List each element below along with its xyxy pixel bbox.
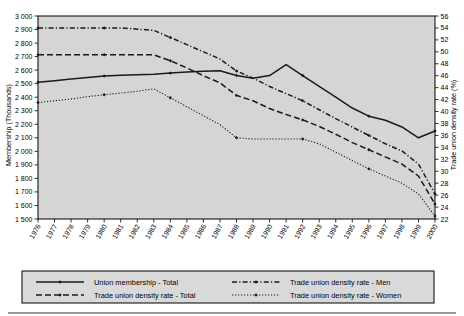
left-tick-label: 2 200 (15, 121, 33, 128)
x-tick-label: 1986 (193, 223, 207, 240)
left-tick-label: 2 400 (15, 94, 33, 101)
right-axis-tick-labels: 222426283032343638404244464850525456 (441, 13, 449, 223)
x-tick-label: 1998 (392, 223, 406, 240)
x-axis-ticks (38, 219, 435, 223)
left-axis-ticks (35, 16, 39, 219)
left-tick-label: 3 000 (15, 13, 33, 20)
chart-legend: Union membership - TotalTrade union dens… (8, 271, 456, 313)
x-tick-label: 1992 (293, 223, 307, 240)
right-tick-label: 36 (441, 132, 449, 139)
x-axis-year-labels: 1976197719781979198019811982198319841985… (28, 223, 439, 240)
right-axis-title: Trade union density rate (%) (449, 80, 458, 170)
left-tick-label: 2 900 (15, 26, 33, 33)
legend-label: Trade union density rate - Men (290, 278, 390, 287)
x-tick-label: 1985 (177, 223, 191, 240)
x-tick-label: 1989 (243, 223, 257, 240)
x-tick-label: 1981 (111, 223, 125, 240)
right-tick-label: 26 (441, 192, 449, 199)
x-tick-label: 1980 (94, 223, 108, 240)
x-tick-label: 1996 (359, 223, 373, 240)
right-tick-label: 48 (441, 60, 449, 67)
right-axis-ticks (435, 16, 439, 219)
x-tick-label: 1995 (342, 223, 356, 240)
legend-label: Trade union density rate - Women (290, 291, 401, 300)
x-tick-label: 1994 (326, 223, 340, 240)
left-tick-label: 2 800 (15, 40, 33, 47)
left-tick-label: 2 500 (15, 80, 33, 87)
chart-figure: 1 5001 6001 7001 8001 9002 0002 1002 200… (0, 0, 464, 316)
right-tick-label: 50 (441, 48, 449, 55)
x-tick-label: 1976 (28, 223, 42, 240)
dual-axis-line-chart: 1 5001 6001 7001 8001 9002 0002 1002 200… (0, 0, 464, 316)
right-tick-label: 42 (441, 96, 449, 103)
x-tick-label: 1977 (45, 223, 59, 240)
left-tick-label: 2 000 (15, 148, 33, 155)
x-tick-label: 1988 (227, 223, 241, 240)
x-tick-label: 1990 (260, 223, 274, 240)
right-tick-label: 40 (441, 108, 449, 115)
x-tick-label: 1982 (127, 223, 141, 240)
left-tick-label: 2 300 (15, 107, 33, 114)
x-tick-label: 1984 (160, 223, 174, 240)
left-tick-label: 1 500 (15, 216, 33, 223)
right-tick-label: 30 (441, 168, 449, 175)
x-tick-label: 1991 (276, 223, 290, 240)
legend-label: Union membership - Total (94, 278, 178, 287)
right-tick-label: 34 (441, 144, 449, 151)
x-tick-label: 1979 (78, 223, 92, 240)
right-tick-label: 44 (441, 84, 449, 91)
legend-label: Trade union density rate - Total (94, 291, 196, 300)
right-tick-label: 54 (441, 24, 449, 31)
left-tick-label: 1 600 (15, 202, 33, 209)
right-tick-label: 28 (441, 180, 449, 187)
left-tick-label: 2 600 (15, 67, 33, 74)
left-axis-title: Membership (Thousands) (4, 84, 13, 166)
x-tick-label: 1983 (144, 223, 158, 240)
x-tick-label: 1993 (309, 223, 323, 240)
right-tick-label: 46 (441, 72, 449, 79)
right-tick-label: 32 (441, 156, 449, 163)
right-tick-label: 52 (441, 36, 449, 43)
left-tick-label: 2 100 (15, 134, 33, 141)
x-tick-label: 1999 (408, 223, 422, 240)
left-tick-label: 1 900 (15, 161, 33, 168)
x-tick-label: 1978 (61, 223, 75, 240)
left-tick-label: 1 800 (15, 175, 33, 182)
left-axis-tick-labels: 1 5001 6001 7001 8001 9002 0002 1002 200… (15, 13, 33, 223)
right-tick-label: 22 (441, 216, 449, 223)
left-tick-label: 2 700 (15, 53, 33, 60)
left-tick-label: 1 700 (15, 188, 33, 195)
x-tick-label: 1997 (375, 223, 389, 240)
right-tick-label: 24 (441, 204, 449, 211)
right-tick-label: 56 (441, 13, 449, 20)
x-tick-label: 2000 (425, 223, 439, 240)
right-tick-label: 38 (441, 120, 449, 127)
x-tick-label: 1987 (210, 223, 224, 240)
